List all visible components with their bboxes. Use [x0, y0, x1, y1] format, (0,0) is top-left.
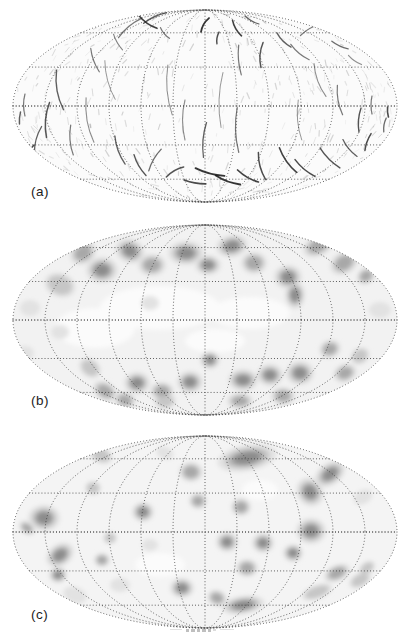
- panel-c-blob-contour-map: (c): [0, 425, 406, 638]
- panel-label-c: (c): [31, 607, 48, 622]
- mollweide-map-c: [0, 425, 406, 638]
- clipped-caption-remnant: [0, 629, 406, 635]
- panel-label-a: (a): [31, 184, 49, 199]
- mollweide-map-a: [0, 0, 406, 213]
- panel-b-smoothed-contour-map: (b): [0, 213, 406, 425]
- mollweide-map-b: [0, 213, 406, 425]
- panel-label-b: (b): [31, 393, 49, 408]
- figure-three-sky-maps: (a) (b) (c): [0, 0, 406, 638]
- panel-a-gradient-map: (a): [0, 0, 406, 213]
